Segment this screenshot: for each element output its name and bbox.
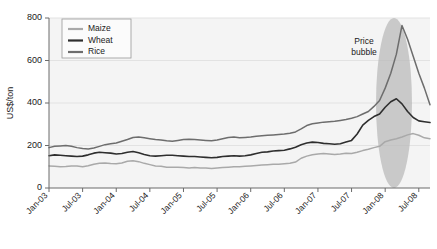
x-tick-label: Jul-03 [60,190,84,214]
x-tick-label: Jul-06 [261,190,285,214]
price-bubble-label: Price bubble [351,36,377,57]
x-tick-label: Jan-08 [360,190,386,216]
y-axis-title: US$/ton [5,87,15,120]
x-axis-ticks: Jan-03Jul-03Jan-04Jul-04Jan-05Jul-05Jan-… [24,188,419,216]
y-tick-label: 600 [27,55,42,65]
x-tick-label: Jul-07 [329,190,353,214]
price-bubble-annotation [376,18,412,188]
x-tick-label: Jul-08 [396,190,420,214]
legend-label-rice: Rice [88,46,105,56]
y-tick-label: 400 [27,97,42,107]
x-tick-label: Jan-06 [226,190,252,216]
price-chart: 0200400600800 Jan-03Jul-03Jan-04Jul-04Ja… [0,0,437,249]
x-tick-label: Jan-05 [158,190,184,216]
x-tick-label: Jan-04 [91,190,117,216]
price-bubble-label-line1: Price [354,36,374,46]
y-tick-label: 800 [27,12,42,22]
x-tick-label: Jul-04 [127,190,151,214]
x-tick-label: Jul-05 [194,190,218,214]
x-tick-label: Jan-03 [24,190,50,216]
y-tick-label: 200 [27,140,42,150]
price-bubble-label-line2: bubble [351,47,377,57]
y-axis-ticks: 0200400600800 [27,12,49,192]
legend-label-wheat: Wheat [88,35,113,45]
x-tick-label: Jan-07 [293,190,319,216]
price-bubble-ellipse [376,18,412,188]
chart-canvas: 0200400600800 Jan-03Jul-03Jan-04Jul-04Ja… [0,0,437,249]
chart-legend: MaizeWheatRice [62,19,131,58]
legend-label-maize: Maize [88,23,111,33]
